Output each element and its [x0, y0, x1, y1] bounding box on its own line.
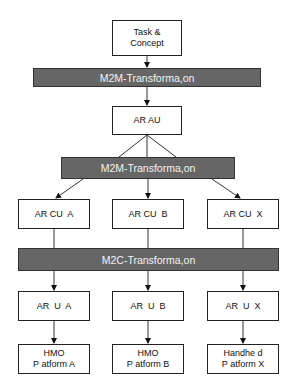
ar-cu-x-label: AR CU X [223, 209, 262, 220]
ar-u-b-node: AR U B [112, 291, 184, 321]
m2m-transformation-bar-2: M2M-Transforma,on [61, 157, 235, 179]
ar-cu-a-node: AR CU A [18, 199, 90, 229]
platform-x-line2: P atform X [222, 359, 264, 370]
ar-cu-x-node: AR CU X [207, 199, 279, 229]
m2m-transformation-label-2: M2M-Transforma,on [101, 162, 196, 174]
ar-u-a-label: AR U A [37, 301, 72, 312]
platform-x-line1: Handhe d [223, 348, 262, 359]
task-concept-node: Task & Concept [112, 20, 182, 56]
platform-a-line2: P atform A [33, 359, 75, 370]
ar-cu-b-node: AR CU B [112, 199, 184, 229]
platform-b-line1: HMO [138, 348, 159, 359]
platform-b-line2: P atform B [127, 359, 169, 370]
m2c-transformation-label: M2C-Transforma,on [102, 254, 196, 266]
ar-au-label: AR AU [133, 115, 160, 126]
m2m-transformation-label-1: M2M-Transforma,on [100, 72, 195, 84]
platform-b-node: HMO P atform B [112, 344, 184, 374]
ar-u-x-label: AR U X [225, 301, 260, 312]
ar-u-b-label: AR U B [130, 301, 165, 312]
m2m-transformation-bar-1: M2M-Transforma,on [33, 68, 261, 87]
platform-x-node: Handhe d P atform X [207, 344, 279, 374]
m2c-transformation-bar: M2C-Transforma,on [18, 248, 279, 271]
platform-a-node: HMO P atform A [18, 344, 90, 374]
ar-u-x-node: AR U X [207, 291, 279, 321]
ar-cu-b-label: AR CU B [128, 209, 167, 220]
ar-cu-a-label: AR CU A [35, 209, 74, 220]
task-concept-line2: Concept [130, 38, 164, 49]
ar-u-a-node: AR U A [18, 291, 90, 321]
platform-a-line1: HMO [44, 348, 65, 359]
connector-lines [0, 0, 295, 387]
ar-au-node: AR AU [112, 106, 182, 135]
task-concept-line1: Task & [133, 27, 160, 38]
